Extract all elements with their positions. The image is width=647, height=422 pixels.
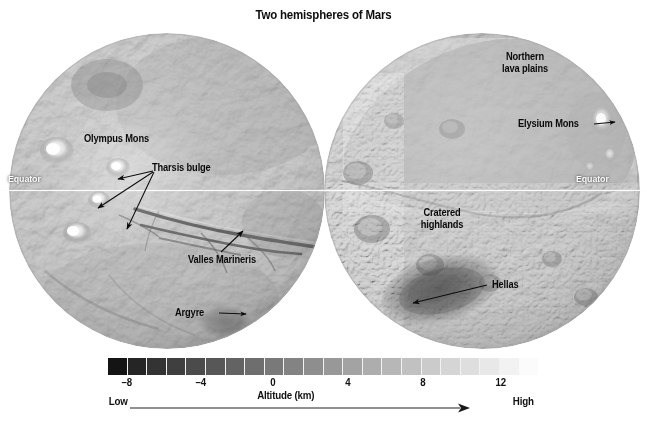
equator-line-east (318, 190, 647, 191)
colorbar-swatch (422, 358, 442, 375)
colorbar-direction-arrow (130, 402, 470, 414)
colorbar-swatch (108, 358, 128, 375)
colorbar-swatch (441, 358, 461, 375)
map-label-cratered-highlands: Cratered highlands (407, 207, 478, 230)
colorbar-tick-label: 0 (270, 376, 275, 388)
colorbar-swatch (265, 358, 285, 375)
colorbar-tick-label: –8 (121, 376, 131, 388)
colorbar-swatch (186, 358, 206, 375)
map-label-valles-marineris: Valles Marineris (188, 254, 256, 266)
colorbar-swatch (324, 358, 344, 375)
colorbar-tick-label: 8 (420, 376, 425, 388)
colorbar-tick-label: 4 (345, 376, 350, 388)
colorbar-swatch (304, 358, 324, 375)
colorbar-high-label: High (513, 395, 534, 407)
eastern-hemisphere-relief-map (324, 33, 640, 349)
mars-hemispheres-figure: Two hemispheres of Mars (0, 0, 647, 422)
equator-label-east: Equator (576, 173, 609, 184)
colorbar-swatch (147, 358, 167, 375)
colorbar-swatch (500, 358, 520, 375)
colorbar-swatch (461, 358, 481, 375)
colorbar-swatch (206, 358, 226, 375)
colorbar-swatch (284, 358, 304, 375)
colorbar-swatch (343, 358, 363, 375)
page-title: Two hemispheres of Mars (26, 8, 621, 22)
altitude-colorbar-legend: –8–404812 Low High Altitude (km) (0, 358, 647, 422)
colorbar-axis-title: Altitude (km) (257, 389, 314, 401)
colorbar-swatch (226, 358, 246, 375)
map-label-line-1: Northern (480, 51, 569, 63)
equator-label-west: Equator (8, 173, 41, 184)
colorbar-swatch (402, 358, 422, 375)
western-hemisphere-globe (9, 33, 325, 349)
western-hemisphere-relief-map (9, 33, 325, 349)
map-label-olympus-mons: Olympus Mons (84, 133, 149, 145)
colorbar-tick-label: 12 (495, 376, 505, 388)
colorbar-tick-label: –4 (196, 376, 206, 388)
equator-line-west (0, 190, 330, 191)
colorbar-gradient (108, 358, 538, 375)
map-label-tharsis-bulge: Tharsis bulge (152, 162, 211, 174)
colorbar-swatch (480, 358, 500, 375)
map-label-line-2: highlands (407, 219, 478, 231)
colorbar-swatch (382, 358, 402, 375)
colorbar-swatch (167, 358, 187, 375)
colorbar-swatch (245, 358, 265, 375)
colorbar-swatch (128, 358, 148, 375)
map-label-northern-lava-plains: Northern lava plains (480, 51, 569, 74)
colorbar-swatch (363, 358, 383, 375)
map-label-hellas: Hellas (492, 279, 519, 291)
map-label-line-2: lava plains (480, 63, 569, 75)
map-label-line-1: Cratered (407, 207, 478, 219)
map-label-elysium-mons: Elysium Mons (518, 118, 579, 130)
colorbar-swatch (519, 358, 538, 375)
colorbar-low-label: Low (109, 395, 128, 407)
map-label-argyre: Argyre (175, 307, 204, 319)
eastern-hemisphere-globe (324, 33, 640, 349)
